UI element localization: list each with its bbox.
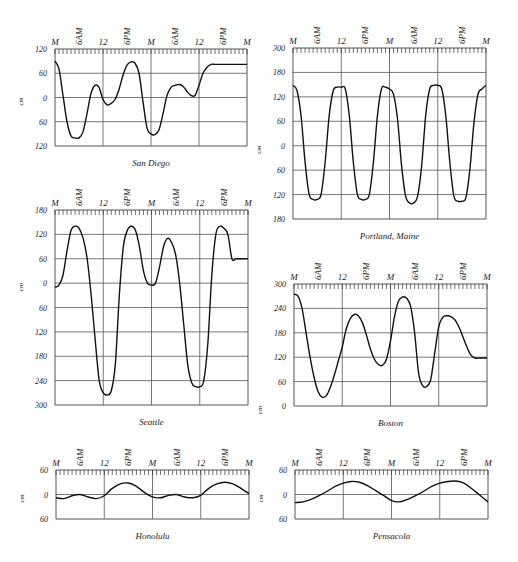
x-tick-label: M <box>387 458 396 468</box>
y-unit-label: cm <box>257 494 265 502</box>
x-tick-label: 6AM <box>314 448 324 466</box>
x-tick-label: 12 <box>339 458 349 468</box>
chart-title: Pensacola <box>295 531 488 541</box>
x-tick-label: M <box>290 458 299 468</box>
y-tick-label: 60 <box>279 466 287 475</box>
x-tick-label: M <box>483 458 492 468</box>
x-tick-label: 6AM <box>411 448 421 466</box>
x-tick-label: 12 <box>435 458 445 468</box>
y-tick-label: 60 <box>279 515 287 524</box>
y-tick-label: 0 <box>283 491 287 500</box>
chart-canvas: 60060M6AM126PMM6AM126PMMcm <box>0 0 518 562</box>
x-tick-label: 6PM <box>459 448 469 466</box>
x-tick-label: 6PM <box>362 448 372 466</box>
